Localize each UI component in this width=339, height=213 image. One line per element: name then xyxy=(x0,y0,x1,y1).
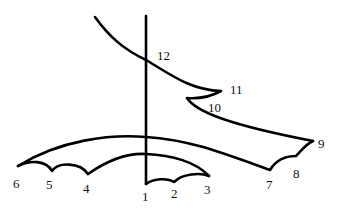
label-4: 4 xyxy=(83,181,90,196)
label-11: 11 xyxy=(230,82,243,97)
inner-arc xyxy=(88,154,209,176)
label-2: 2 xyxy=(171,186,178,201)
label-9: 9 xyxy=(318,136,325,151)
sail-curve xyxy=(95,17,313,141)
label-3: 3 xyxy=(204,182,211,197)
diagram-canvas: 1 2 3 4 5 6 7 8 9 10 11 12 xyxy=(0,0,339,213)
left-scallops xyxy=(18,162,88,174)
bottom-scallops xyxy=(146,174,209,184)
label-10: 10 xyxy=(208,100,221,115)
label-5: 5 xyxy=(46,177,53,192)
label-12: 12 xyxy=(157,48,170,63)
label-6: 6 xyxy=(13,176,20,191)
label-7: 7 xyxy=(266,177,273,192)
label-8: 8 xyxy=(293,166,300,181)
label-1: 1 xyxy=(142,189,149,204)
